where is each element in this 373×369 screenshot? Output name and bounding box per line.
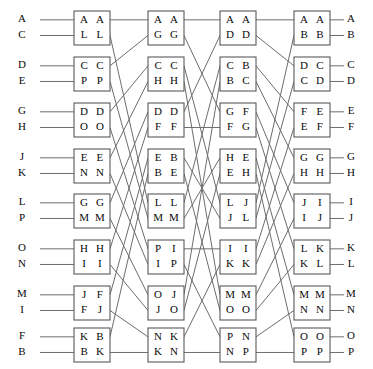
box-2-2-top-right: C (170, 59, 177, 71)
link-stage1-12 (110, 158, 148, 295)
output-label-4: E (348, 104, 355, 116)
box-1-6-bottom-left: I (82, 257, 86, 269)
box-1-8-top-left: K (80, 330, 88, 342)
box-1-8-top-right: B (96, 330, 103, 342)
box-3-2-top-right: B (242, 59, 249, 71)
box-4-2-top-right: C (316, 59, 323, 71)
box-4-3-outline (294, 103, 330, 137)
box-2-2[interactable]: CCHH (148, 57, 184, 91)
box-3-3[interactable]: GFFG (220, 103, 256, 137)
box-1-2[interactable]: CCPP (74, 57, 110, 91)
box-4-2[interactable]: DCCD (294, 57, 330, 91)
box-2-5-bottom-right: M (169, 211, 179, 223)
box-4-6[interactable]: LKKL (294, 240, 330, 274)
output-label-3: D (347, 74, 355, 86)
box-3-2-top-left: C (226, 59, 233, 71)
box-4-8[interactable]: OOPP (294, 328, 330, 362)
output-label-9: J (349, 211, 354, 223)
box-1-1-bottom-left: L (81, 28, 88, 40)
box-3-7[interactable]: MMOO (220, 286, 256, 320)
box-2-7-top-right: J (172, 288, 177, 300)
box-2-6[interactable]: PIIP (148, 240, 184, 274)
box-2-3-top-right: D (170, 105, 178, 117)
output-label-1: B (347, 28, 354, 40)
output-label-14: O (347, 329, 355, 341)
input-label-6: J (20, 150, 25, 162)
box-4-3-bottom-left: E (301, 120, 308, 132)
box-1-3-top-left: D (80, 105, 88, 117)
link-stage3-13 (256, 264, 294, 310)
box-3-6-top-right: I (244, 242, 248, 254)
box-4-1[interactable]: AABB (294, 11, 330, 45)
box-4-5[interactable]: JIIJ (294, 194, 330, 228)
box-1-7[interactable]: JFFJ (74, 286, 110, 320)
box-2-6-outline (148, 240, 184, 274)
output-label-2: C (347, 58, 354, 70)
box-4-3-top-right: E (317, 105, 324, 117)
box-4-4[interactable]: GGHH (294, 149, 330, 183)
box-1-4-bottom-left: N (80, 166, 88, 178)
box-4-3[interactable]: FEEF (294, 103, 330, 137)
box-3-8-bottom-right: P (243, 345, 249, 357)
input-label-2: D (18, 58, 26, 70)
box-3-6[interactable]: IIKK (220, 240, 256, 274)
box-2-6-bottom-left: I (156, 257, 160, 269)
box-1-8[interactable]: KBBK (74, 328, 110, 362)
input-label-12: M (17, 287, 27, 299)
box-2-3[interactable]: DDFF (148, 103, 184, 137)
box-3-3-top-left: G (226, 105, 234, 117)
box-1-5-top-left: G (80, 196, 88, 208)
box-4-7-bottom-right: N (316, 303, 324, 315)
box-4-7-top-right: M (315, 288, 325, 300)
box-4-1-bottom-left: B (300, 28, 307, 40)
box-2-4[interactable]: EBBE (148, 149, 184, 183)
box-2-8[interactable]: NKKN (148, 328, 184, 362)
box-3-6-top-left: I (228, 242, 232, 254)
link-stage1-4 (110, 66, 148, 112)
box-2-3-bottom-left: F (155, 120, 161, 132)
box-3-2[interactable]: CBBC (220, 57, 256, 91)
box-1-7-bottom-left: F (81, 303, 87, 315)
box-4-7-bottom-left: N (300, 303, 308, 315)
box-1-1[interactable]: AALL (74, 11, 110, 45)
box-3-4[interactable]: HEEH (220, 149, 256, 183)
box-3-5-bottom-left: J (228, 211, 233, 223)
box-4-1-bottom-right: B (316, 28, 323, 40)
box-4-8-bottom-left: P (301, 345, 307, 357)
link-stage1-11 (110, 264, 148, 310)
box-3-3-top-right: F (243, 105, 249, 117)
box-1-4[interactable]: EENN (74, 149, 110, 183)
input-label-10: O (18, 241, 26, 253)
box-4-7[interactable]: MMNN (294, 286, 330, 320)
box-2-8-top-right: K (170, 330, 178, 342)
box-1-4-top-left: E (81, 151, 88, 163)
box-4-8-top-right: O (316, 330, 324, 342)
box-1-2-top-right: C (96, 59, 103, 71)
box-1-6-bottom-right: I (98, 257, 102, 269)
box-2-5[interactable]: LLMM (148, 194, 184, 228)
box-2-7[interactable]: OJJO (148, 286, 184, 320)
box-1-5[interactable]: GGMM (74, 194, 110, 228)
box-1-5-top-right: G (96, 196, 104, 208)
box-4-1-top-left: A (300, 13, 308, 25)
box-2-8-top-left: N (154, 330, 162, 342)
box-3-5-top-right: J (244, 196, 249, 208)
box-1-3[interactable]: DDOO (74, 103, 110, 137)
link-stage1-2 (110, 35, 148, 65)
box-4-1-top-right: A (316, 13, 324, 25)
box-3-2-outline (220, 57, 256, 91)
box-3-5[interactable]: LJJL (220, 194, 256, 228)
box-2-3-top-left: D (154, 105, 162, 117)
output-label-10: K (347, 241, 355, 253)
box-1-6[interactable]: HHII (74, 240, 110, 274)
box-3-3-bottom-right: G (242, 120, 250, 132)
link-stage3-8 (256, 35, 294, 202)
box-3-3-bottom-left: F (227, 120, 233, 132)
box-4-5-bottom-right: J (318, 211, 323, 223)
box-2-1[interactable]: AAGG (148, 11, 184, 45)
box-2-4-outline (148, 149, 184, 183)
box-3-1[interactable]: AADD (220, 11, 256, 45)
box-4-5-top-right: I (318, 196, 322, 208)
box-3-8[interactable]: PNNP (220, 328, 256, 362)
box-1-8-bottom-left: B (80, 345, 87, 357)
